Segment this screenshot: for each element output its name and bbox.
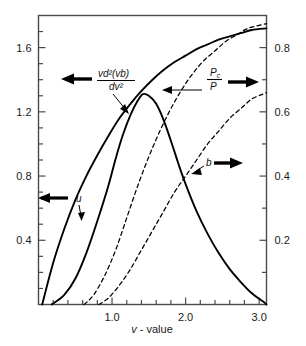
x-axis-tick-label: 2.0 bbox=[178, 311, 193, 323]
annotation-pc-denominator: P bbox=[210, 81, 217, 92]
y-axis-left-tick-label: 1.6 bbox=[16, 42, 31, 54]
chart-svg: 0.40.81.21.6 0.20.40.60.8 1.02.03.0 v- v… bbox=[0, 0, 306, 346]
chart-figure: 0.40.81.21.6 0.20.40.60.8 1.02.03.0 v- v… bbox=[0, 0, 306, 346]
y-axis-right-tick-label: 0.2 bbox=[275, 234, 290, 246]
annotation-second-derivative-denominator: dv² bbox=[109, 81, 124, 92]
annotation-u-label: u bbox=[76, 193, 82, 204]
y-axis-right-tick-label: 0.4 bbox=[275, 170, 290, 182]
x-axis-tick-label: 3.0 bbox=[251, 311, 266, 323]
chart-background bbox=[0, 0, 306, 346]
y-axis-left-tick-label: 1.2 bbox=[16, 106, 31, 118]
x-axis-title-rest: - value bbox=[140, 323, 173, 335]
annotation-second-derivative-numerator: vd²(vb) bbox=[98, 68, 129, 79]
x-axis-tick-label: 1.0 bbox=[104, 311, 119, 323]
y-axis-right-tick-label: 0.6 bbox=[275, 106, 290, 118]
annotation-b-label: b bbox=[206, 157, 212, 168]
y-axis-left-tick-label: 0.8 bbox=[16, 170, 31, 182]
y-axis-right-tick-label: 0.8 bbox=[275, 42, 290, 54]
y-axis-left-tick-label: 0.4 bbox=[16, 234, 31, 246]
